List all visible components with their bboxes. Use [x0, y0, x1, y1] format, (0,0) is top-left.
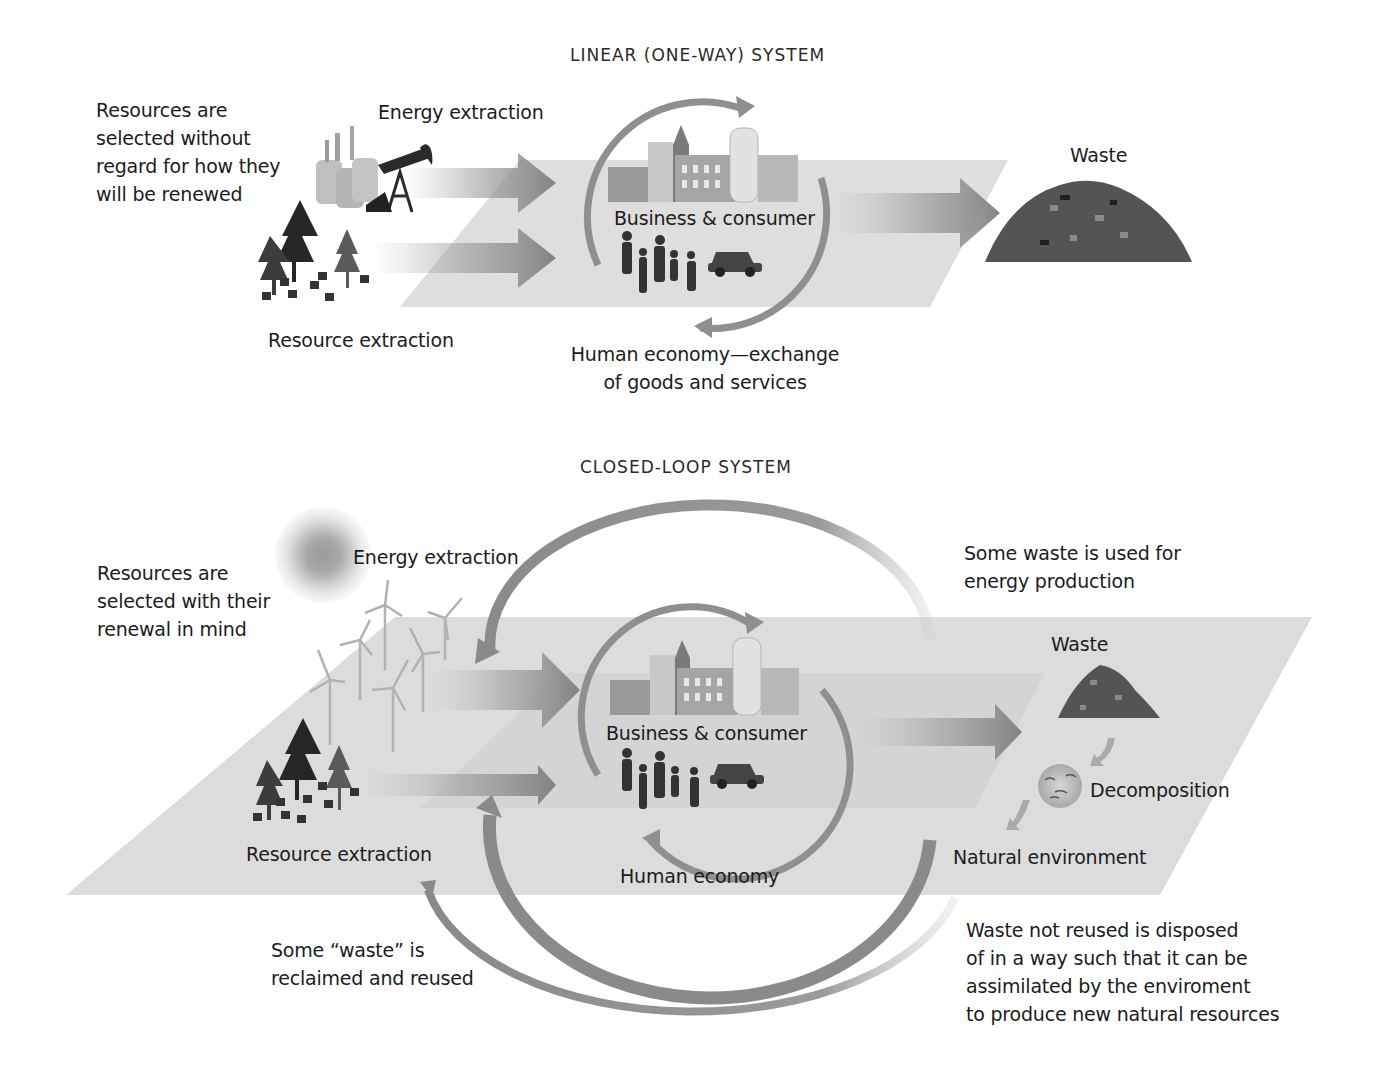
note-line: Waste not reused is disposed — [966, 916, 1238, 944]
linear-resource-extraction-label: Resource extraction — [268, 326, 454, 354]
closed-loop-system-title: CLOSED-LOOP SYSTEM — [580, 457, 792, 477]
decomposition-label: Decomposition — [1090, 776, 1230, 804]
diagram: LINEAR (ONE-WAY) SYSTEM Resources are se… — [0, 0, 1382, 1089]
note-line: Resources are — [96, 96, 227, 124]
waste-pile-icon — [985, 181, 1192, 262]
linear-business-consumer-label: Business & consumer — [614, 204, 815, 232]
refinery-icon — [316, 126, 378, 208]
cycle-arrowhead-icon — [694, 317, 712, 338]
note-line: will be renewed — [96, 180, 242, 208]
note-line: to produce new natural resources — [966, 1000, 1279, 1028]
note-line: energy production — [964, 567, 1135, 595]
note-line: Some “waste” is — [271, 936, 424, 964]
note-line: selected without — [96, 124, 250, 152]
label-line: Human economy—exchange — [560, 340, 850, 368]
note-line: Some waste is used for — [964, 539, 1181, 567]
note-line: reclaimed and reused — [271, 964, 474, 992]
closed-resource-extraction-label: Resource extraction — [246, 840, 432, 868]
natural-environment-label: Natural environment — [953, 843, 1146, 871]
note-line: of in a way such that it can be — [966, 944, 1247, 972]
cycle-arrowhead-icon — [736, 96, 755, 118]
note-line: selected with their — [97, 587, 270, 615]
note-line: assimilated by the enviroment — [966, 972, 1250, 1000]
closed-human-economy-label: Human economy — [620, 862, 779, 890]
microbe-icon — [1038, 764, 1082, 808]
note-line: Resources are — [97, 559, 228, 587]
label-line: of goods and services — [560, 368, 850, 396]
linear-energy-extraction-label: Energy extraction — [378, 98, 544, 126]
closed-energy-extraction-label: Energy extraction — [353, 543, 519, 571]
note-line: regard for how they — [96, 152, 280, 180]
closed-waste-label: Waste — [1051, 630, 1108, 658]
note-line: renewal in mind — [97, 615, 247, 643]
forest-icon — [258, 200, 369, 301]
closed-business-consumer-label: Business & consumer — [606, 719, 807, 747]
linear-system-title: LINEAR (ONE-WAY) SYSTEM — [570, 45, 825, 65]
linear-waste-label: Waste — [1070, 141, 1127, 169]
